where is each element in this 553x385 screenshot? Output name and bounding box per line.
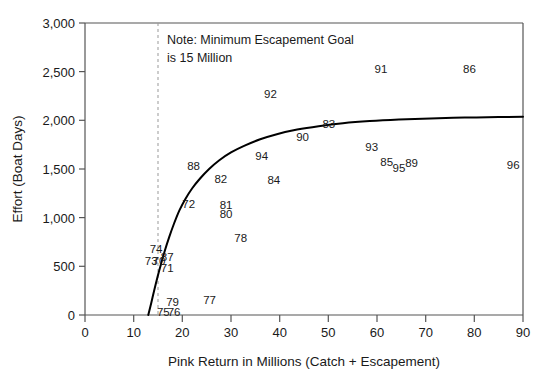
x-axis-title: Pink Return in Millions (Catch + Escapem… [168,354,440,369]
data-point-label: 79 [166,296,179,308]
data-point-label: 92 [264,88,277,100]
x-tick-label: 60 [370,325,384,340]
x-tick-label: 80 [467,325,481,340]
y-tick-label: 1,500 [42,162,75,177]
data-point-label: 91 [374,63,387,75]
y-tick-label: 0 [68,308,75,323]
x-tick-label: 70 [418,325,432,340]
data-point-label: 85 [380,156,393,168]
data-point-label: 82 [214,173,227,185]
x-tick-label: 50 [321,325,335,340]
y-tick-label: 3,000 [42,16,75,31]
data-point-label: 83 [322,118,335,130]
data-point-label: 96 [507,159,520,171]
note-line-2: is 15 Million [167,51,232,65]
data-point-label: 84 [267,174,280,186]
data-point-label: 94 [255,150,268,162]
chart-svg: 3,000 2,500 2,000 1,500 1,000 500 0 0 10… [0,0,553,385]
data-point-label: 93 [365,141,378,153]
y-tick-label: 2,500 [42,65,75,80]
y-tick-label: 500 [53,259,75,274]
pink-salmon-effort-chart: 3,000 2,500 2,000 1,500 1,000 500 0 0 10… [0,0,553,385]
data-point-label: 80 [220,208,233,220]
note-line-1: Note: Minimum Escapement Goal [167,33,354,47]
x-tick-label: 30 [224,325,238,340]
x-tick-label: 0 [81,325,88,340]
data-point-label: 78 [234,232,247,244]
y-axis-title: Effort (Boat Days) [10,115,25,222]
data-point-label: 87 [161,251,174,263]
x-tick-label: 40 [272,325,286,340]
x-tick-label: 90 [516,325,530,340]
x-tick-label: 20 [175,325,189,340]
data-point-label: 90 [296,131,309,143]
y-tick-label: 2,000 [42,113,75,128]
x-tick-label: 10 [126,325,140,340]
y-tick-label: 1,000 [42,211,75,226]
data-point-label: 86 [463,63,476,75]
data-point-label: 95 [393,162,406,174]
data-point-label: 89 [405,157,418,169]
data-point-label: 72 [182,198,195,210]
data-point-label: 77 [203,294,216,306]
data-point-label: 71 [161,262,174,274]
data-point-label: 88 [187,160,200,172]
